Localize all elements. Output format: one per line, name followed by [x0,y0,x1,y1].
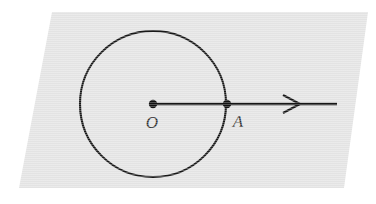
geometry-figure: O A [0,0,376,204]
figure-container: O A [0,0,376,204]
point-dot-a [223,100,231,108]
point-label-a: A [232,112,244,131]
plane-parallelogram [19,12,368,188]
point-dot-o [149,100,157,108]
point-label-o: O [146,113,158,132]
